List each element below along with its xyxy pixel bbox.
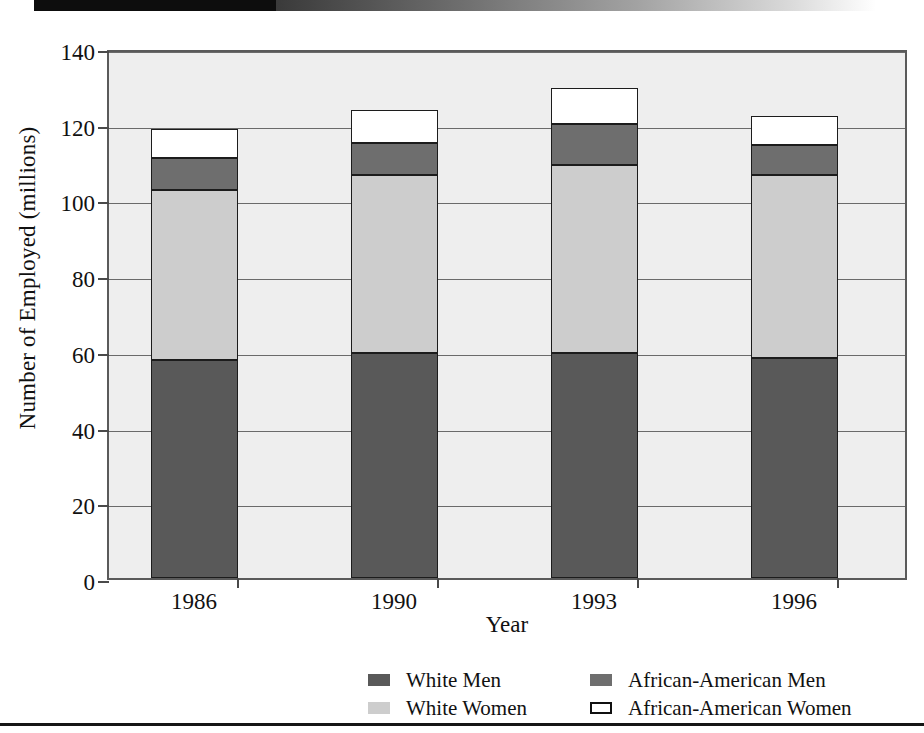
legend-item-african-american-women[interactable]: African-American Women [590, 696, 852, 721]
x-axis-tick-mark [637, 578, 639, 588]
bar-segment-white-men-1990[interactable] [351, 353, 438, 578]
legend-item-african-american-men[interactable]: African-American Men [590, 668, 826, 693]
bar-group-1993[interactable] [551, 48, 638, 578]
bar-group-1990[interactable] [351, 48, 438, 578]
bar-segment-african-american-women-1990[interactable] [351, 110, 438, 142]
bar-segment-african-american-men-1996[interactable] [751, 145, 838, 175]
x-axis-title: Year [107, 612, 907, 638]
y-axis-tick-label: 0 [35, 571, 109, 594]
bar-segment-african-american-men-1986[interactable] [151, 158, 238, 190]
stacked-bar-chart-figure: Number of Employed (millions) 0204060801… [0, 0, 924, 733]
legend-item-white-men[interactable]: White Men [368, 668, 590, 693]
legend-row: White Men African-American Men [368, 666, 924, 694]
x-axis-tick-label-1990: 1990 [324, 590, 464, 613]
plot-area: 0204060801001201401986199019931996 [107, 50, 907, 580]
bar-segment-african-american-men-1990[interactable] [351, 143, 438, 175]
x-axis-tick-mark [437, 578, 439, 588]
bar-group-1996[interactable] [751, 48, 838, 578]
legend-label-african-american-men: African-American Men [628, 668, 826, 693]
legend-swatch-african-american-men [590, 674, 612, 686]
legend-item-white-women[interactable]: White Women [368, 696, 590, 721]
legend-label-african-american-women: African-American Women [628, 696, 852, 721]
bar-segment-white-men-1993[interactable] [551, 353, 638, 578]
y-axis-tick-label: 40 [35, 419, 109, 442]
legend-swatch-white-women [368, 702, 390, 714]
bar-segment-white-women-1993[interactable] [551, 165, 638, 352]
bar-segment-african-american-women-1986[interactable] [151, 129, 238, 157]
x-axis-tick-label-1996: 1996 [724, 590, 864, 613]
bar-segment-african-american-women-1993[interactable] [551, 88, 638, 124]
bar-segment-white-women-1986[interactable] [151, 190, 238, 360]
y-axis-tick-label: 120 [35, 116, 109, 139]
bottom-rule [0, 723, 924, 726]
y-axis-tick-label: 60 [35, 343, 109, 366]
bar-segment-white-women-1996[interactable] [751, 175, 838, 359]
legend-swatch-white-men [368, 674, 390, 686]
bar-group-1986[interactable] [151, 48, 238, 578]
bar-segment-white-men-1986[interactable] [151, 360, 238, 578]
legend-swatch-african-american-women [590, 702, 612, 714]
legend-row: White Women African-American Women [368, 694, 924, 722]
x-axis-tick-mark [237, 578, 239, 588]
bar-segment-white-men-1996[interactable] [751, 358, 838, 578]
bar-segment-white-women-1990[interactable] [351, 175, 438, 353]
legend-label-white-women: White Women [406, 696, 527, 721]
legend-label-white-men: White Men [406, 668, 501, 693]
y-axis-tick-label: 100 [35, 192, 109, 215]
y-axis-tick-label: 140 [35, 41, 109, 64]
y-axis-tick-label: 80 [35, 268, 109, 291]
bar-segment-african-american-women-1996[interactable] [751, 116, 838, 144]
x-axis-tick-label-1993: 1993 [524, 590, 664, 613]
chart-legend: White Men African-American Men White Wom… [368, 666, 924, 722]
y-axis-tick-label: 20 [35, 495, 109, 518]
x-axis-tick-label-1986: 1986 [124, 590, 264, 613]
x-axis-tick-mark [837, 578, 839, 588]
bar-segment-african-american-men-1993[interactable] [551, 124, 638, 166]
